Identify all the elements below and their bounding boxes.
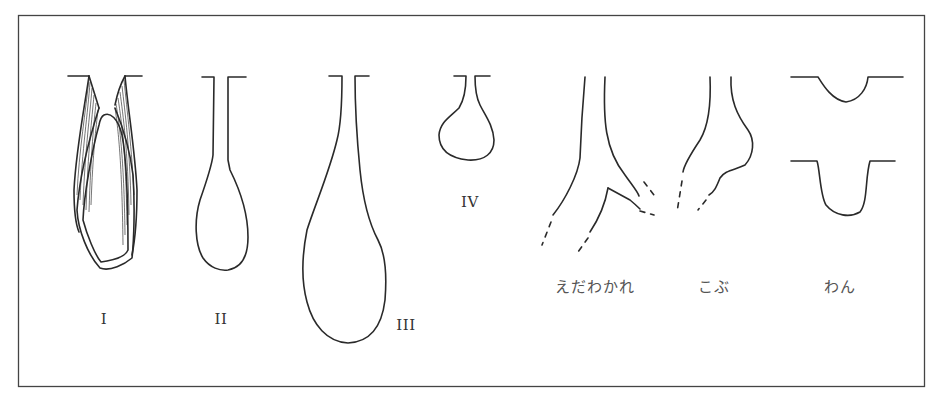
shape-type-3 — [303, 76, 386, 343]
shape-type-4 — [439, 76, 494, 160]
shape-bump — [677, 77, 753, 212]
diagram-figure: I II III IV えだわかれ こぶ わん — [0, 0, 947, 400]
shape-type-2 — [196, 77, 248, 270]
shape-bowl — [791, 77, 903, 215]
label-type-4: IV — [461, 193, 479, 211]
label-bump: こぶ — [698, 275, 730, 296]
label-branching: えだわかれ — [555, 275, 635, 296]
shape-type-1 — [68, 76, 142, 269]
label-type-2: II — [215, 310, 228, 328]
label-type-3: III — [396, 316, 415, 334]
label-bowl: わん — [824, 275, 856, 296]
label-type-1: I — [101, 310, 107, 328]
shape-branching — [542, 77, 654, 252]
